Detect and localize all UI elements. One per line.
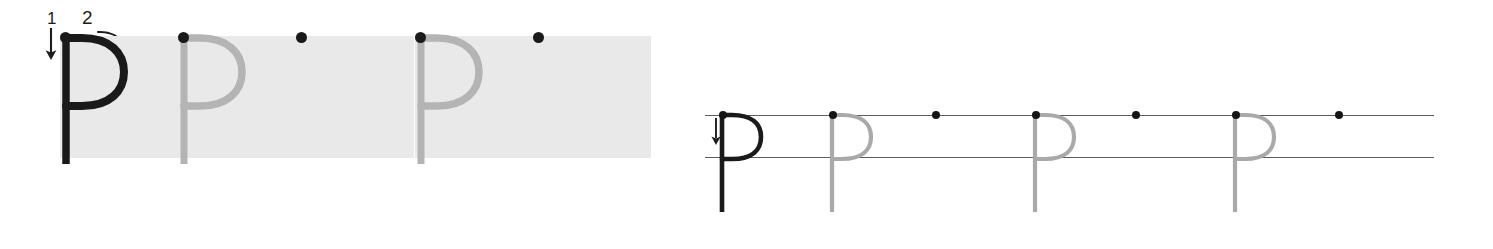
practice-box-5[interactable] <box>533 36 651 158</box>
start-dot-box-4 <box>415 32 426 43</box>
trace-letter-P-4 <box>407 28 527 168</box>
model-letter-p-line-1 <box>716 108 786 220</box>
start-dot-line-2 <box>829 111 837 119</box>
stroke-order-label-2: 2 <box>82 8 93 27</box>
practice-box-3[interactable] <box>296 36 414 158</box>
trace-letter-p-line-2 <box>826 108 896 220</box>
start-dot-box-1 <box>60 32 71 43</box>
start-dot-box-3 <box>296 32 307 43</box>
start-dot-line-5 <box>1132 111 1140 119</box>
handwriting-worksheet: 1 2 <box>0 0 1493 249</box>
trace-letter-p-line-4 <box>1029 108 1099 220</box>
trace-letter-P-2 <box>170 28 290 168</box>
start-dot-line-1 <box>719 111 727 119</box>
start-dot-line-4 <box>1032 111 1040 119</box>
stroke-order-label-1: 1 <box>47 10 56 27</box>
model-letter-P-1 <box>52 28 172 168</box>
ruled-line-practice-row <box>690 0 1493 249</box>
start-dot-box-2 <box>178 32 189 43</box>
start-dot-line-7 <box>1335 111 1343 119</box>
start-dot-box-5 <box>533 32 544 43</box>
trace-letter-p-line-6 <box>1229 108 1299 220</box>
boxed-letter-practice-row: 1 2 <box>0 0 680 249</box>
start-dot-line-6 <box>1232 111 1240 119</box>
start-dot-line-3 <box>932 111 940 119</box>
